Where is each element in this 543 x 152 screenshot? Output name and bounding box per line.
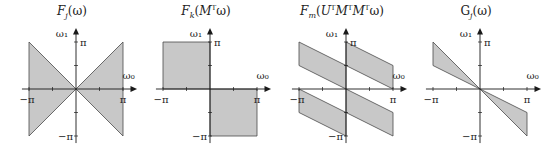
y-tick-label-pi: π	[484, 37, 491, 48]
x-tick-label-neg-pi: −π	[424, 94, 439, 105]
shaded-region	[163, 42, 210, 89]
x-axis-label: ω₀	[393, 70, 405, 81]
panel-gj: Gj(ω) π−ππ−πω₀ω₁	[408, 0, 543, 152]
y-axis-arrow-icon	[207, 28, 213, 35]
shaded-region	[299, 42, 346, 89]
y-axis-label: ω₁	[460, 28, 472, 39]
x-tick-label-neg-pi: −π	[20, 94, 35, 105]
panel-fm: Fm(UTMTMTω) π−ππ−πω₀ω₁	[274, 0, 410, 152]
plot-area: π−ππ−πω₀ω₁	[138, 0, 274, 152]
y-tick-label-neg-pi: −π	[462, 131, 477, 142]
y-tick-label-neg-pi: −π	[328, 131, 343, 142]
y-tick-label-neg-pi: −π	[192, 131, 207, 142]
x-axis-label: ω₀	[123, 70, 135, 81]
x-axis-arrow-icon	[131, 86, 138, 92]
shaded-region	[480, 89, 527, 136]
panel-fk: Fk(MTω) π−ππ−πω₀ω₁	[138, 0, 274, 152]
x-tick-label-pi: π	[390, 94, 397, 105]
x-axis-arrow-icon	[535, 86, 542, 92]
y-axis-arrow-icon	[73, 28, 79, 35]
y-tick-label-pi: π	[350, 37, 357, 48]
y-axis-arrow-icon	[477, 28, 483, 35]
y-tick-label-pi: π	[80, 37, 87, 48]
x-tick-label-pi: π	[254, 94, 261, 105]
shaded-region	[346, 89, 393, 136]
y-tick-label-pi: π	[214, 37, 221, 48]
x-axis-arrow-icon	[401, 86, 408, 92]
x-tick-label-pi: π	[524, 94, 531, 105]
shaded-region	[299, 89, 346, 136]
x-axis-label: ω₀	[257, 70, 269, 81]
plot-area: π−ππ−πω₀ω₁	[4, 0, 140, 152]
plot-area: π−ππ−πω₀ω₁	[408, 0, 543, 152]
shaded-region	[210, 89, 257, 136]
shaded-region	[346, 42, 393, 89]
panel-fj: Fj(ω) π−ππ−πω₀ω₁	[4, 0, 140, 152]
x-axis-arrow-icon	[265, 86, 272, 92]
y-axis-label: ω₁	[190, 28, 202, 39]
y-axis-label: ω₁	[56, 28, 68, 39]
x-tick-label-neg-pi: −π	[154, 94, 169, 105]
y-axis-label: ω₁	[326, 28, 338, 39]
x-axis-label: ω₀	[527, 70, 539, 81]
x-tick-label-pi: π	[120, 94, 127, 105]
shaded-region	[433, 42, 480, 89]
x-tick-label-neg-pi: −π	[290, 94, 305, 105]
y-axis-arrow-icon	[343, 28, 349, 35]
y-tick-label-neg-pi: −π	[58, 131, 73, 142]
plot-area: π−ππ−πω₀ω₁	[274, 0, 410, 152]
